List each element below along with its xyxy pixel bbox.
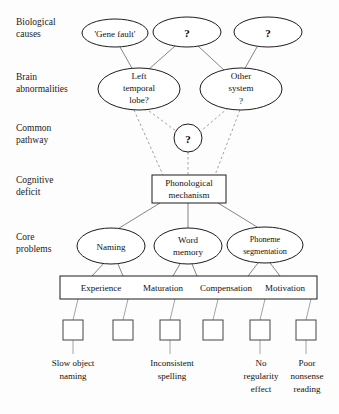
naming-line1: Naming	[97, 242, 126, 252]
other-system-line2: system	[228, 83, 253, 93]
outcome-square-1[interactable]	[63, 320, 83, 340]
row-label-common-pathway: Common pathway	[16, 123, 52, 145]
word-memory-line2: memory	[173, 247, 203, 257]
bio-unknown-2-label: ?	[265, 27, 271, 39]
connector-gene-fault-to-left-temporal	[120, 47, 133, 70]
moderator-motivation-label: Motivation	[265, 283, 305, 293]
connector-word-memory-to-band-right	[192, 264, 197, 276]
outcome-caption-1: Slow object naming	[52, 358, 95, 381]
row-label-cognitive-deficit: Cognitive deficit	[16, 175, 53, 197]
node-bio-unknown-2[interactable]: ?	[234, 17, 302, 47]
phoneme-segmentation-line1: Phoneme	[250, 235, 281, 244]
outcome-square-4[interactable]	[203, 320, 223, 340]
left-temporal-lobe-line1: Left	[132, 71, 147, 81]
connector-bio1-to-other-system	[198, 46, 224, 70]
outcome-6-line1: Poor	[298, 358, 315, 368]
gene-fault-label: 'Gene fault'	[95, 29, 136, 39]
outcome-6-line2: nonsense	[291, 371, 324, 381]
node-bio-unknown-1[interactable]: ?	[153, 17, 221, 47]
moderator-band[interactable]: Experience Maturation Compensation Motiv…	[60, 276, 317, 299]
connector-word-memory-to-band-left	[173, 264, 180, 276]
phoneme-segmentation-ellipse[interactable]	[227, 227, 303, 263]
row-label-line2: problems	[16, 244, 52, 254]
connector-left-temporal-to-common-pathway	[145, 108, 176, 131]
row-label-line2: abnormalities	[16, 84, 68, 94]
row-label-brain-abnormalities: Brain abnormalities	[16, 72, 68, 94]
row-label-line2: deficit	[16, 187, 41, 197]
outcome-5-line3: effect	[251, 384, 272, 394]
outcome-1-line2: naming	[60, 371, 87, 381]
connector-group-cognitive-to-core	[116, 203, 262, 230]
connector-band-to-outcome-6	[306, 299, 311, 320]
other-system-line3: ?	[239, 96, 243, 106]
outcome-square-6[interactable]	[296, 320, 316, 340]
connector-group-band-to-outcomes	[73, 299, 311, 320]
connector-phoneme-to-band-left	[248, 263, 258, 276]
connector-band-to-outcome-5	[260, 299, 265, 320]
row-label-line2: causes	[16, 29, 41, 39]
outcome-5-line2: regularity	[244, 371, 279, 381]
connector-group-bio-to-brain	[120, 46, 257, 70]
node-gene-fault[interactable]: 'Gene fault'	[82, 19, 148, 47]
row-label-line1: Cognitive	[16, 175, 53, 185]
connector-naming-to-band-left	[92, 262, 105, 276]
bio-unknown-1-label: ?	[184, 27, 190, 39]
outcome-square-2[interactable]	[113, 320, 133, 340]
row-label-line1: Core	[16, 232, 34, 242]
connector-phoneme-to-band-right	[270, 263, 280, 276]
outcome-square-3[interactable]	[160, 320, 180, 340]
connector-bio1-to-left-temporal	[148, 46, 175, 70]
connector-other-system-to-phonological	[215, 110, 240, 175]
word-memory-ellipse[interactable]	[154, 228, 222, 264]
moderator-experience-label: Experience	[81, 283, 121, 293]
connector-band-to-outcome-4	[213, 299, 218, 320]
outcome-5-line1: No	[256, 358, 267, 368]
node-common-pathway-unknown[interactable]: ?	[174, 124, 202, 152]
moderator-maturation-label: Maturation	[143, 283, 183, 293]
connector-phonological-to-phoneme-segmentation	[218, 203, 262, 230]
node-phoneme-segmentation[interactable]: Phoneme segmentation	[227, 227, 303, 263]
outcome-1-line1: Slow object	[52, 358, 95, 368]
moderator-compensation-label: Compensation	[200, 283, 252, 293]
node-word-memory[interactable]: Word memory	[154, 228, 222, 264]
row-label-line1: Biological	[16, 17, 56, 27]
connector-group-outcomes-to-captions	[73, 340, 306, 354]
connector-naming-to-band-right	[118, 264, 123, 276]
connector-bio2-to-other-system	[244, 47, 257, 70]
causal-model-diagram: Biological causes Brain abnormalities Co…	[0, 0, 339, 414]
outcome-caption-5: No regularity effect	[244, 358, 279, 394]
outcome-3-line2: spelling	[158, 371, 187, 381]
outcome-6-line3: reading	[294, 384, 321, 394]
left-temporal-lobe-line3: lobe?	[129, 95, 149, 105]
left-temporal-lobe-line2: temporal	[123, 83, 155, 93]
phonological-mechanism-line1: Phonological	[165, 178, 213, 188]
connector-other-system-to-common-pathway	[201, 108, 228, 131]
row-label-biological-causes: Biological causes	[16, 17, 56, 39]
node-left-temporal-lobe[interactable]: Left temporal lobe?	[98, 68, 180, 110]
outcome-squares-group	[63, 320, 316, 340]
row-label-core-problems: Core problems	[16, 232, 52, 254]
common-pathway-label: ?	[185, 133, 191, 145]
node-phonological-mechanism[interactable]: Phonological mechanism	[152, 175, 226, 203]
row-label-line1: Common	[16, 123, 52, 133]
row-label-line1: Brain	[16, 72, 37, 82]
outcome-square-5[interactable]	[250, 320, 270, 340]
other-system-line1: Other	[231, 71, 252, 81]
outcome-caption-6: Poor nonsense reading	[291, 358, 324, 394]
row-label-line2: pathway	[16, 135, 48, 145]
node-other-system[interactable]: Other system ?	[200, 68, 282, 110]
outcome-caption-3: Inconsistent spelling	[150, 358, 194, 381]
node-naming[interactable]: Naming	[77, 228, 145, 264]
outcome-3-line1: Inconsistent	[150, 358, 194, 368]
connector-band-to-outcome-3	[170, 299, 175, 320]
phoneme-segmentation-line2: segmentation	[243, 247, 287, 256]
connector-band-to-outcome-1	[73, 299, 78, 320]
diagram-canvas: Biological causes Brain abnormalities Co…	[0, 0, 339, 414]
connector-band-to-outcome-2	[123, 299, 128, 320]
word-memory-line1: Word	[178, 235, 198, 245]
connector-left-temporal-to-phonological	[134, 110, 163, 175]
connector-phonological-to-naming	[116, 203, 160, 230]
phonological-mechanism-line2: mechanism	[169, 190, 210, 200]
